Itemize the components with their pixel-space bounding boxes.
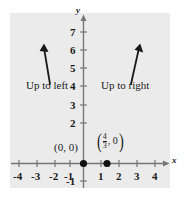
- up-to-right-arrow: [131, 44, 143, 85]
- point-four-thirds: [103, 160, 110, 167]
- x-tick-label-1: 1: [98, 171, 104, 182]
- x-tick-label-2: 2: [116, 171, 122, 182]
- y-tick-label-7: 7: [70, 27, 76, 38]
- up-to-left-arrow: [40, 44, 50, 85]
- annotation-up-to-left: Up to left: [26, 80, 68, 91]
- paren-close: ): [119, 132, 124, 150]
- fraction-numerator: 4: [103, 133, 107, 141]
- point-label-origin: (0, 0): [54, 142, 78, 153]
- fraction-denominator: 3: [103, 142, 107, 150]
- y-axis-label: y: [76, 6, 80, 15]
- point-label-y-part: , 0: [108, 136, 118, 146]
- point-label-four-thirds: ( 4 3 , 0 ): [96, 132, 124, 150]
- x-axis: [11, 160, 170, 167]
- y-tick-label--1: -1: [66, 176, 75, 187]
- y-tick-label-3: 3: [70, 100, 76, 111]
- y-tick-label-6: 6: [70, 45, 76, 56]
- y-tick-label-5: 5: [70, 63, 76, 74]
- graph-figure: -4 -3 -2 -1 1 2 3 4 7 6 5 4 3 2 -1 y x U…: [0, 0, 186, 197]
- x-tick-label--2: -2: [49, 171, 58, 182]
- x-tick-label-4: 4: [152, 171, 158, 182]
- x-tick-label--4: -4: [13, 171, 22, 182]
- annotation-up-to-right: Up to right: [101, 80, 149, 91]
- x-tick-label--3: -3: [31, 171, 40, 182]
- y-tick-label-2: 2: [70, 118, 76, 129]
- coordinate-axes-svg: [0, 0, 186, 197]
- y-tick-label-4: 4: [70, 81, 76, 92]
- paren-open: (: [97, 132, 102, 150]
- point-origin: [80, 160, 87, 167]
- x-tick-label-3: 3: [134, 171, 140, 182]
- x-axis-label: x: [172, 156, 177, 165]
- fraction-four-thirds: 4 3: [103, 133, 107, 150]
